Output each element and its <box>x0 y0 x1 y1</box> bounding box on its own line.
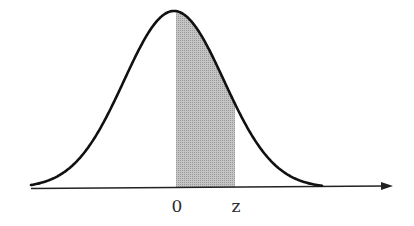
normal-distribution-diagram: 0 z <box>0 0 414 226</box>
shaded-area-0-to-z <box>176 12 235 187</box>
label-zero: 0 <box>172 196 183 216</box>
label-z: z <box>232 196 241 216</box>
x-axis-arrowhead-icon <box>381 182 393 190</box>
